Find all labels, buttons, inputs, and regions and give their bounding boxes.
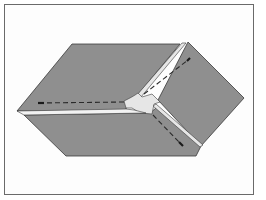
seam-junction-diagram [0,0,266,200]
